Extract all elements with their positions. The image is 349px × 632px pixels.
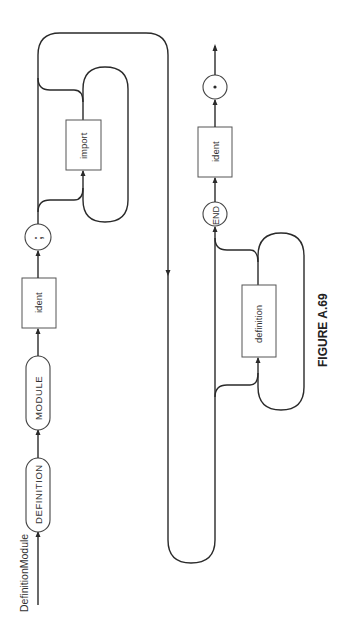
arrow-icon bbox=[213, 177, 218, 183]
import-branch-upper bbox=[38, 78, 83, 120]
main-line-upper bbox=[38, 33, 168, 540]
arrow-icon bbox=[36, 250, 41, 256]
arrow-icon bbox=[36, 328, 41, 334]
import-branch-lower bbox=[38, 171, 83, 212]
arrow-icon bbox=[213, 99, 218, 105]
period-dot bbox=[213, 85, 216, 88]
definition-keyword-label: DEFINITION bbox=[33, 464, 44, 524]
ident-label-1: ident bbox=[33, 292, 44, 313]
arrow-icon bbox=[81, 170, 86, 176]
diagram-title: DefinitionModule bbox=[18, 534, 30, 612]
semicolon-label: ; bbox=[31, 236, 45, 240]
arrow-icon bbox=[166, 270, 171, 276]
syntax-diagram: DefinitionModule DEFINITION MODULE ident… bbox=[0, 0, 349, 632]
definition-branch-lower bbox=[215, 358, 258, 397]
arrow-icon bbox=[213, 226, 218, 232]
module-keyword-label: MODULE bbox=[33, 376, 44, 420]
exit-arrow-icon bbox=[213, 44, 218, 51]
definition-branch-upper bbox=[215, 238, 258, 285]
ident-label-2: ident bbox=[210, 141, 221, 162]
figure-caption: FIGURE A.69 bbox=[316, 293, 330, 367]
arrow-icon bbox=[256, 357, 261, 363]
definition-label: definition bbox=[253, 305, 264, 343]
end-keyword-label: END bbox=[211, 205, 221, 225]
import-label: import bbox=[78, 132, 89, 159]
return-u-turn bbox=[168, 227, 215, 563]
